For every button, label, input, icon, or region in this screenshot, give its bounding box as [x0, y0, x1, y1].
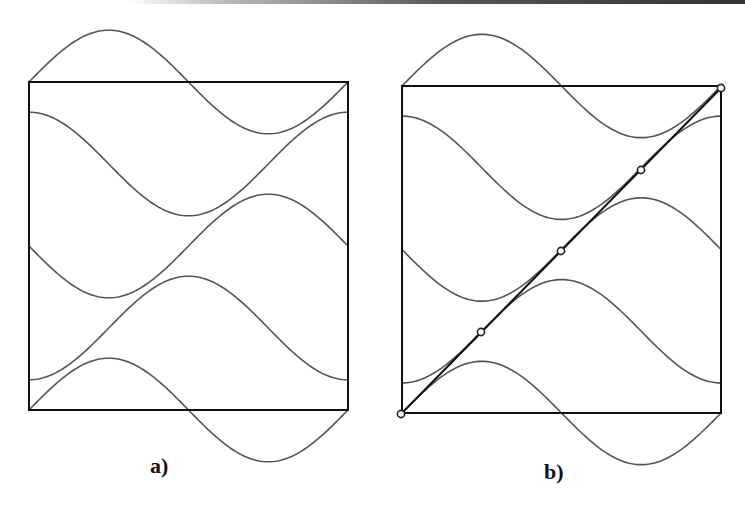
panel-b-caption: b): [544, 459, 564, 485]
curve-wave-3: [29, 194, 348, 298]
marker-circle-icon: [557, 247, 564, 254]
curve-wave-4: [29, 276, 348, 380]
marker-circle-icon: [717, 84, 724, 91]
figure-canvas: [0, 0, 745, 518]
curve-wave-4: [402, 280, 721, 383]
marker-circle-icon: [637, 166, 644, 173]
marker-circle-icon: [477, 328, 484, 335]
panel-a: [29, 30, 348, 462]
marker-circle-icon: [397, 410, 404, 417]
panel-a-caption: a): [150, 453, 168, 479]
panel-b: [397, 34, 724, 464]
curve-wave-2: [29, 112, 348, 216]
curve-wave-2: [402, 116, 721, 219]
